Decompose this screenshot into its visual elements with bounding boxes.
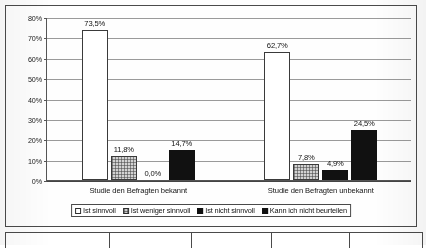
bar-value-label: 4,9%	[327, 159, 344, 168]
bar	[351, 130, 377, 180]
bar-value-label: 0,0%	[144, 169, 161, 178]
y-axis-tick-mark	[44, 38, 47, 39]
legend-swatch	[75, 208, 81, 214]
y-axis-tick-label: 60%	[28, 54, 42, 63]
legend-label: Ist sinnvoll	[83, 206, 116, 215]
bar-value-label: 7,8%	[298, 153, 315, 162]
y-axis-tick-label: 70%	[28, 34, 42, 43]
y-axis-tick-label: 50%	[28, 75, 42, 84]
bottom-truncated-table	[5, 232, 423, 248]
table-cell	[110, 233, 192, 248]
legend-label: Ist nicht sinnvoll	[205, 206, 254, 215]
y-axis-tick-mark	[44, 79, 47, 80]
y-axis-tick-mark	[44, 140, 47, 141]
legend-item: Ist sinnvoll	[75, 206, 116, 215]
bar	[169, 150, 195, 180]
table-cell	[350, 233, 422, 248]
chart-legend: Ist sinnvollIst weniger sinnvollIst nich…	[71, 204, 351, 217]
category-label: Studie den Befragten unbekannt	[268, 186, 374, 195]
gridline	[47, 181, 411, 182]
y-axis-tick-label: 30%	[28, 115, 42, 124]
legend-label: Kann ich nicht beurteilen	[270, 206, 347, 215]
bar	[293, 164, 319, 180]
y-axis-tick-label: 80%	[28, 14, 42, 23]
y-axis-tick-label: 10%	[28, 156, 42, 165]
legend-swatch	[262, 208, 268, 214]
bar-value-label: 62,7%	[267, 41, 288, 50]
y-axis-tick-label: 40%	[28, 95, 42, 104]
bar	[82, 30, 108, 180]
bar-value-label: 14,7%	[171, 139, 192, 148]
legend-item: Kann ich nicht beurteilen	[262, 206, 347, 215]
plot-area: 0%10%20%30%40%50%60%70%80%73,5%11,8%0,0%…	[46, 18, 411, 181]
table-cell	[6, 233, 110, 248]
bar-value-label: 73,5%	[84, 19, 105, 28]
legend-swatch	[197, 208, 203, 214]
y-axis-tick-mark	[44, 181, 47, 182]
y-axis-tick-label: 20%	[28, 136, 42, 145]
legend-swatch	[123, 208, 129, 214]
y-axis-tick-mark	[44, 18, 47, 19]
bar	[264, 52, 290, 180]
table-cell	[272, 233, 350, 248]
y-axis-tick-mark	[44, 59, 47, 60]
legend-label: Ist weniger sinnvoll	[131, 206, 190, 215]
bar-value-label: 11,8%	[114, 145, 134, 154]
bar	[111, 156, 137, 180]
legend-item: Ist weniger sinnvoll	[123, 206, 190, 215]
table-cell	[192, 233, 272, 248]
bar	[322, 170, 348, 180]
y-axis-tick-mark	[44, 100, 47, 101]
y-axis-tick-label: 0%	[32, 177, 42, 186]
y-axis-tick-mark	[44, 161, 47, 162]
category-label: Studie den Befragten bekannt	[89, 186, 187, 195]
legend-item: Ist nicht sinnvoll	[197, 206, 254, 215]
y-axis-tick-mark	[44, 120, 47, 121]
bar-value-label: 24,5%	[354, 119, 375, 128]
chart-frame: 0%10%20%30%40%50%60%70%80%73,5%11,8%0,0%…	[5, 5, 417, 227]
